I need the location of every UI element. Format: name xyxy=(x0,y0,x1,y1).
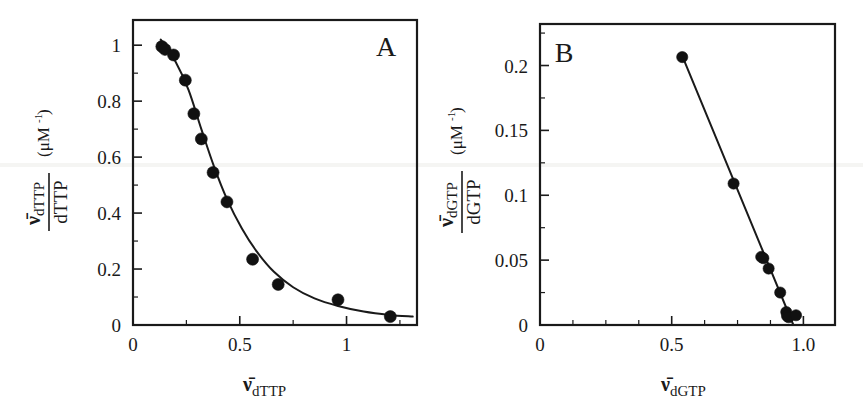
panel-b-x-major-ticks xyxy=(540,316,803,325)
panel-a-y-units: (μM xyxy=(34,127,53,157)
data-point xyxy=(677,51,688,62)
data-point xyxy=(168,49,180,61)
y-tick-label: 0.6 xyxy=(97,147,121,168)
figure-container: 00.51 00.20.40.60.81 A ν̄ dTTP ν̄ dTTP xyxy=(0,0,863,407)
panel-b-y-axis-label: ν̄ dGTP dGTP (μM -1 ) xyxy=(435,107,484,233)
panel-a-y-denom: dTTP xyxy=(50,180,71,223)
y-tick-label: 0.1 xyxy=(504,185,528,206)
panel-b-x-axis-sub: dGTP xyxy=(670,383,706,399)
panel-b-fit-line xyxy=(682,56,793,325)
x-tick-label: 1 xyxy=(342,334,352,355)
data-point xyxy=(188,108,200,120)
data-point xyxy=(247,253,259,265)
panel-b-x-tick-labels: 00.51.0 xyxy=(535,334,815,355)
panel-a-data-points xyxy=(156,41,396,323)
data-point xyxy=(758,253,769,264)
data-point xyxy=(179,74,191,86)
panel-b-y-major-ticks xyxy=(540,66,549,325)
panel-a-y-tick-labels: 00.20.40.60.81 xyxy=(97,35,121,336)
panel-a-x-axis-label: ν̄ dTTP xyxy=(242,373,286,399)
data-point xyxy=(384,311,396,323)
y-tick-label: 0 xyxy=(519,315,529,336)
data-point xyxy=(195,133,207,145)
x-tick-label: 0 xyxy=(535,334,545,355)
y-tick-label: 0.15 xyxy=(495,120,528,141)
panel-a-y-numer-sub: dTTP xyxy=(31,182,47,216)
y-tick-label: 0.2 xyxy=(504,56,528,77)
y-tick-label: 0.2 xyxy=(97,259,121,280)
panel-b-y-numer-sub: dGTP xyxy=(444,182,460,218)
panel-b-y-tick-labels: 00.050.10.150.2 xyxy=(495,56,528,336)
panel-a-x-axis-sub: dTTP xyxy=(252,383,286,399)
panel-a-y-axis-label: ν̄ dTTP dTTP (μM -1 ) xyxy=(22,109,71,231)
data-point xyxy=(221,196,233,208)
panel-b-y-units-close: ) xyxy=(447,107,466,113)
x-tick-label: 0 xyxy=(128,334,138,355)
y-tick-label: 0.8 xyxy=(97,91,121,112)
panel-b-svg: 00.51.0 00.050.10.150.2 B ν̄ dGTP ν̄ dGT… xyxy=(432,0,863,407)
x-tick-label: 1.0 xyxy=(792,334,816,355)
data-point xyxy=(763,263,774,274)
x-tick-label: 0.5 xyxy=(660,334,684,355)
panel-a: 00.51 00.20.40.60.81 A ν̄ dTTP ν̄ dTTP xyxy=(0,0,432,407)
panel-b-letter: B xyxy=(555,37,574,68)
x-tick-label: 0.5 xyxy=(228,334,252,355)
data-point xyxy=(790,310,801,321)
panel-a-fit-curve xyxy=(161,40,413,317)
panel-b-x-axis-label: ν̄ dGTP xyxy=(660,373,706,399)
panel-a-letter: A xyxy=(376,31,397,62)
panel-a-svg: 00.51 00.20.40.60.81 A ν̄ dTTP ν̄ dTTP xyxy=(0,0,432,407)
data-point xyxy=(775,287,786,298)
panel-a-x-major-ticks xyxy=(133,316,347,325)
panel-a-x-tick-labels: 00.51 xyxy=(128,334,351,355)
data-point xyxy=(332,294,344,306)
y-tick-label: 1 xyxy=(112,35,122,56)
data-point xyxy=(272,278,284,290)
panel-b-data-points xyxy=(677,51,802,322)
y-tick-label: 0.05 xyxy=(495,250,528,271)
data-point xyxy=(728,178,739,189)
panel-b: 00.51.0 00.050.10.150.2 B ν̄ dGTP ν̄ dGT… xyxy=(432,0,863,407)
panel-a-y-units-close: ) xyxy=(34,109,53,115)
y-tick-label: 0.4 xyxy=(97,203,121,224)
y-tick-label: 0 xyxy=(112,315,122,336)
data-point xyxy=(207,167,219,179)
panel-b-y-units: (μM xyxy=(447,125,466,155)
panel-b-y-denom: dGTP xyxy=(463,179,484,224)
